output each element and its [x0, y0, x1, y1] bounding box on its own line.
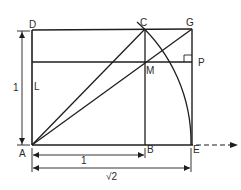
dim-ab-arrow-left-icon: [33, 152, 39, 158]
label-b: B: [147, 144, 154, 155]
dim-label-ae: √2: [106, 171, 117, 182]
dim-ae-arrow-left-icon: [33, 165, 39, 171]
label-p: P: [198, 57, 205, 68]
dim-label-vertical: 1: [13, 82, 19, 93]
label-m: M: [146, 65, 154, 76]
dim-ae-arrow-right-icon: [184, 165, 190, 171]
top-dg: [32, 29, 192, 30]
diagonal-ac: [32, 29, 145, 145]
dim-arrow-down-icon: [19, 138, 25, 144]
label-d: D: [29, 19, 36, 30]
dim-ab-arrow-right-icon: [138, 152, 144, 158]
label-e: E: [193, 144, 200, 155]
label-a: A: [19, 148, 26, 159]
label-c: C: [140, 17, 147, 28]
right-angle-marker: [184, 55, 192, 62]
dim-arrow-up-icon: [19, 32, 25, 38]
label-l: L: [34, 81, 40, 92]
root-two-rectangle-diagram: D C G L M P A B E 1 1 √2: [0, 0, 241, 190]
dim-label-ab: 1: [81, 155, 87, 166]
label-g: G: [186, 17, 194, 28]
extension-arrow-icon: [230, 142, 238, 148]
diagonal-ag: [32, 29, 192, 145]
